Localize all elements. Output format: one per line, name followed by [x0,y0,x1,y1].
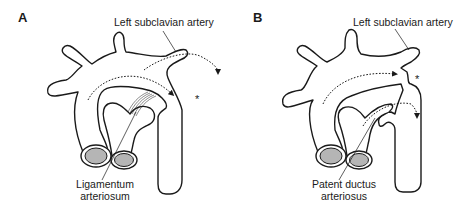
patent-ductus-arteriosus-label: Patent ductus arteriosus [301,178,387,202]
coarctation-marker: * [195,93,199,105]
coarctation-marker: * [415,73,419,85]
leader-subclavian [163,31,176,52]
pulmonary-trunk [103,103,154,156]
label-line-1: Ligamentum [64,178,146,190]
leader-subclavian [395,29,409,50]
label-line-2: arteriosus [301,190,387,202]
left-subclavian-artery-label: Left subclavian artery [114,16,214,28]
ligamentum-arteriosum-label: Ligamentum arteriosum [64,178,146,202]
label-line-1: Patent ductus [301,178,387,190]
panel-a: A Left subclavian artery * Ligamentum ar… [0,0,236,213]
label-line-2: arteriosum [64,190,146,202]
panel-letter: A [18,10,27,25]
pulmonary-trunk [338,104,392,156]
left-subclavian-artery-label: Left subclavian artery [353,16,453,28]
panel-letter: B [253,10,262,25]
panel-b: B Left subclavian artery * Patent ductus… [235,0,471,213]
